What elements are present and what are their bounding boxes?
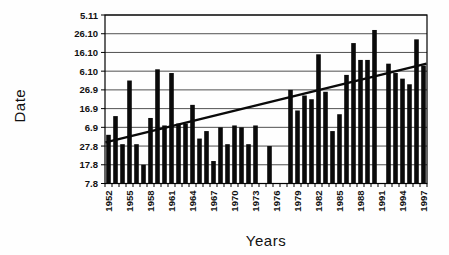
- x-tick-label-1991: 1991: [376, 190, 387, 212]
- bar-1964: [190, 105, 195, 184]
- bar-1959: [155, 69, 160, 183]
- bar-1996: [414, 39, 419, 183]
- bar-1966: [204, 131, 209, 183]
- x-tick-label-1952: 1952: [103, 191, 114, 212]
- x-tick-label-1982: 1982: [313, 191, 324, 212]
- bar-1987: [351, 43, 356, 183]
- x-tick-label-1988: 1988: [355, 191, 366, 212]
- bar-1973: [253, 125, 258, 183]
- y-tick-label-26.10: 26.10: [74, 28, 98, 39]
- bar-1997: [421, 66, 426, 184]
- y-tick-label-16.10: 16.10: [74, 47, 98, 58]
- bar-1986: [344, 75, 349, 184]
- y-axis-title: Date: [11, 93, 28, 123]
- x-tick-label-1997: 1997: [418, 191, 429, 212]
- bar-1990: [372, 30, 377, 184]
- bar-1955: [127, 81, 132, 184]
- bar-1958: [148, 118, 153, 184]
- bar-1982: [316, 54, 321, 183]
- bar-1980: [302, 96, 307, 184]
- bar-1968: [218, 127, 223, 183]
- bar-1965: [197, 139, 202, 184]
- bar-1975: [267, 146, 272, 183]
- y-tick-label-6.9: 6.9: [85, 122, 98, 133]
- x-tick-label-1955: 1955: [124, 190, 135, 212]
- bar-1994: [400, 79, 405, 184]
- bar-1967: [211, 161, 216, 183]
- y-tick-label-7.8: 7.8: [85, 178, 98, 189]
- bar-1969: [225, 144, 230, 183]
- bar-1995: [407, 84, 412, 183]
- bar-1957: [141, 165, 146, 184]
- bar-1981: [309, 99, 314, 183]
- bar-1992: [386, 64, 391, 184]
- y-tick-label-17.8: 17.8: [80, 159, 99, 170]
- bar-1962: [176, 124, 181, 184]
- x-tick-label-1985: 1985: [334, 190, 345, 212]
- x-tick-label-1970: 1970: [229, 191, 240, 212]
- x-tick-label-1973: 1973: [250, 191, 261, 212]
- bar-1979: [295, 110, 300, 183]
- bar-1963: [183, 124, 188, 184]
- bar-1972: [246, 144, 251, 183]
- bar-1978: [288, 90, 293, 184]
- y-tick-label-27.8: 27.8: [80, 141, 99, 152]
- x-tick-label-1976: 1976: [271, 191, 282, 212]
- x-tick-label-1967: 1967: [208, 191, 219, 212]
- x-axis-title: Years: [105, 232, 427, 249]
- x-tick-label-1964: 1964: [187, 190, 198, 212]
- trend-line: [106, 64, 427, 143]
- bar-1993: [393, 73, 398, 183]
- bar-1956: [134, 144, 139, 183]
- y-tick-label-5.11: 5.11: [80, 10, 99, 21]
- plot-area: 7.817.827.86.916.926.96.1016.1026.105.11…: [0, 0, 449, 255]
- x-tick-label-1961: 1961: [166, 190, 177, 212]
- bar-1971: [239, 127, 244, 183]
- date-by-year-bar-chart: 7.817.827.86.916.926.96.1016.1026.105.11…: [0, 0, 449, 255]
- plot-border: [105, 15, 427, 184]
- x-tick-label-1958: 1958: [145, 191, 156, 212]
- bar-1970: [232, 125, 237, 183]
- bar-1983: [323, 92, 328, 184]
- bar-1985: [337, 114, 342, 183]
- y-tick-label-16.9: 16.9: [80, 103, 99, 114]
- bar-1960: [162, 125, 167, 183]
- bar-1984: [330, 131, 335, 183]
- bar-1954: [120, 144, 125, 183]
- y-tick-label-26.9: 26.9: [80, 84, 99, 95]
- bar-1961: [169, 73, 174, 183]
- y-tick-label-6.10: 6.10: [80, 66, 99, 77]
- bar-1953: [113, 116, 118, 183]
- x-tick-label-1979: 1979: [292, 191, 303, 212]
- x-tick-label-1994: 1994: [397, 190, 408, 212]
